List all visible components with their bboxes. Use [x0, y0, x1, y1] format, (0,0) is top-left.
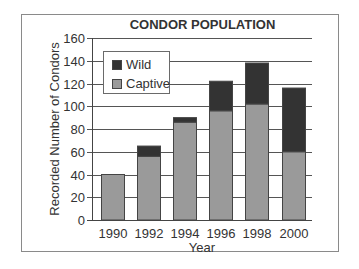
bar-wild-1992	[138, 146, 161, 156]
captive-swatch-icon	[112, 79, 122, 89]
bar-wild-1996	[210, 81, 233, 111]
y-tick-label: 0	[78, 213, 85, 228]
wild-swatch-icon	[112, 60, 122, 70]
x-tick-label: 1996	[207, 226, 236, 241]
bar-captive-1992	[138, 156, 161, 220]
bar-captive-1996	[210, 111, 233, 220]
y-tick-label: 40	[71, 168, 85, 183]
chart-plot: 0204060801001201401601990199219941996199…	[0, 0, 359, 269]
bar-wild-2000	[283, 88, 306, 152]
bar-captive-2000	[283, 152, 306, 220]
y-tick-label: 120	[63, 77, 85, 92]
y-tick-label: 60	[71, 145, 85, 160]
legend: Wild Captive	[103, 51, 170, 94]
y-tick-label: 80	[71, 122, 85, 137]
legend-item-wild: Wild	[112, 57, 151, 72]
bar-captive-1994	[174, 122, 197, 220]
y-tick-label: 140	[63, 54, 85, 69]
y-tick-label: 100	[63, 99, 85, 114]
x-tick-label: 1998	[243, 226, 272, 241]
bar-captive-1998	[246, 104, 269, 220]
bar-captive-1990	[102, 175, 125, 221]
x-tick-label: 1992	[135, 226, 164, 241]
legend-label-captive: Captive	[126, 76, 170, 91]
y-tick-label: 20	[71, 190, 85, 205]
x-tick-label: 2000	[280, 226, 309, 241]
bar-wild-1994	[174, 118, 197, 123]
y-tick-label: 160	[63, 31, 85, 46]
legend-item-captive: Captive	[112, 76, 170, 91]
x-axis-label: Year	[189, 240, 216, 255]
x-tick-label: 1990	[99, 226, 128, 241]
x-tick-label: 1994	[171, 226, 200, 241]
bar-wild-1998	[246, 63, 269, 104]
legend-label-wild: Wild	[126, 57, 151, 72]
y-axis-label: Recorded Number of Condors	[47, 42, 62, 216]
